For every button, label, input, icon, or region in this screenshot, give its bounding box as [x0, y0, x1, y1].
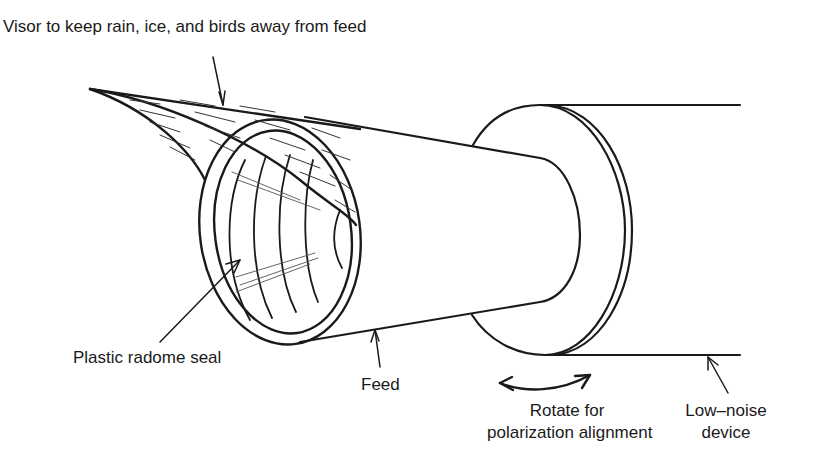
rotate-label-line2: polarization alignment — [487, 422, 647, 444]
rotate-arrow-icon — [500, 375, 590, 390]
feed-body-shape — [300, 117, 580, 342]
feed-assembly-drawing — [0, 0, 817, 469]
feed-label: Feed — [361, 374, 400, 396]
radome-seal-label: Plastic radome seal — [73, 347, 221, 369]
visor-label: Visor to keep rain, ice, and birds away … — [3, 16, 366, 38]
low-noise-label-line1: Low–noise — [676, 400, 776, 422]
flange-shape — [472, 105, 632, 355]
rotate-label: Rotate for polarization alignment — [487, 400, 647, 444]
horn-corrugations — [229, 155, 342, 320]
low-noise-device-shape — [540, 105, 740, 355]
low-noise-label-line2: device — [676, 422, 776, 444]
rotate-label-line1: Rotate for — [487, 400, 647, 422]
low-noise-device-label: Low–noise device — [676, 400, 776, 444]
leader-lines — [160, 57, 728, 393]
visor-shape — [90, 89, 360, 225]
